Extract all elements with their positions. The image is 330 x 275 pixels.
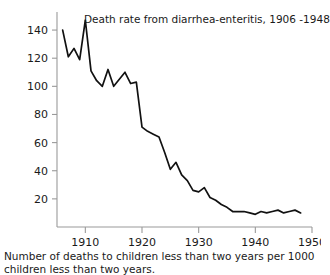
x-tick-label: 1940 (241, 236, 269, 249)
data-series-line (63, 20, 301, 214)
y-axis-ticks: 20406080100120140 (27, 24, 57, 206)
y-tick-label: 100 (27, 80, 48, 93)
y-tick-label: 60 (34, 137, 48, 150)
x-tick-label: 1950 (298, 236, 321, 249)
line-chart: 20406080100120140 19101920193019401950 (0, 0, 321, 250)
x-axis-ticks: 19101920193019401950 (71, 227, 321, 249)
x-tick-label: 1930 (185, 236, 213, 249)
chart-title: Death rate from diarrhea-enteritis, 1906… (84, 13, 330, 26)
x-tick-label: 1920 (128, 236, 156, 249)
y-tick-label: 20 (34, 193, 48, 206)
x-tick-label: 1910 (71, 236, 99, 249)
y-tick-label: 140 (27, 24, 48, 37)
y-tick-label: 40 (34, 165, 48, 178)
y-tick-label: 80 (34, 108, 48, 121)
y-tick-label: 120 (27, 52, 48, 65)
chart-caption: Number of deaths to children less than t… (4, 250, 319, 275)
